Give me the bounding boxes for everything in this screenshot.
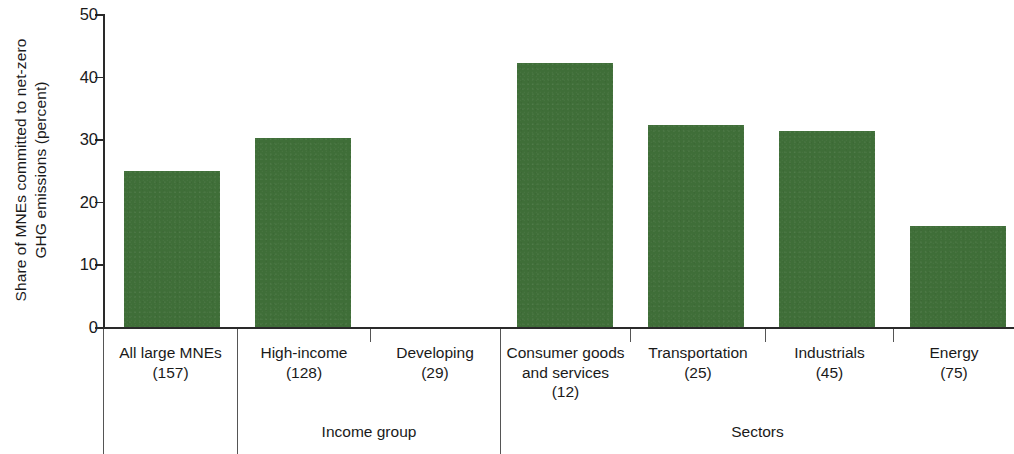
category-label-developing: Developing (29) [372,343,498,382]
y-axis-title: Share of MNEs committed to net-zero GHG … [0,0,62,340]
group-label-sectors: Sectors [502,424,1013,440]
category-separator-industrials [765,329,766,342]
plot-area: 0 10 20 30 40 50 [103,14,1014,327]
bar-transportation [648,125,744,327]
category-separator-transportation [630,329,631,342]
group-label-income-group: Income group [239,424,499,440]
category-label-all-large-mnes: All large MNEs (157) [105,343,236,382]
bar-chart-figure: Share of MNEs committed to net-zero GHG … [0,0,1014,454]
bar-all-large-mnes [124,171,220,327]
category-label-consumer-goods: Consumer goods and services (12) [502,343,629,402]
y-tick-label: 20 [80,194,98,211]
category-label-energy: Energy (75) [895,343,1013,382]
category-label-high-income: High-income (128) [240,343,368,382]
x-axis-line [95,327,1014,329]
bar-energy [910,226,1006,327]
bar-consumer-goods [517,63,613,327]
category-label-industrials: Industrials (45) [767,343,892,382]
bar-high-income [255,138,351,327]
category-separator-developing [370,329,371,342]
y-tick-label: 10 [80,256,98,273]
y-tick-label: 50 [80,6,98,23]
y-tick-label: 40 [80,68,98,85]
category-separator-energy [893,329,894,342]
category-label-transportation: Transportation (25) [632,343,764,382]
y-tick-label: 30 [80,131,98,148]
bar-industrials [779,131,875,327]
y-axis-line [103,14,105,327]
